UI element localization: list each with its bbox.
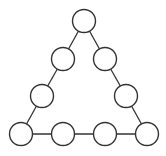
node-n4 [31, 85, 54, 108]
diagram-svg [0, 0, 166, 156]
node-n9 [136, 123, 159, 146]
nodes-group [10, 10, 159, 146]
node-n1 [73, 10, 96, 33]
node-n2 [52, 48, 75, 71]
node-n5 [115, 85, 138, 108]
edges-group [21, 21, 147, 134]
node-n6 [10, 123, 33, 146]
node-n8 [94, 123, 117, 146]
triangle-diagram [0, 0, 166, 156]
node-n3 [94, 48, 117, 71]
node-n7 [52, 123, 75, 146]
